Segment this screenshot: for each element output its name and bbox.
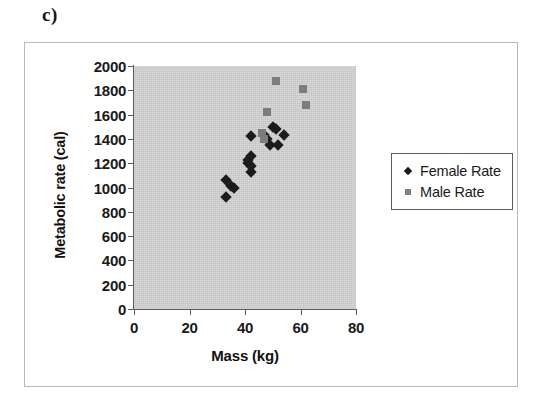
x-axis-tick: [134, 309, 135, 315]
data-point-male-rate: [272, 77, 280, 85]
legend-entry[interactable]: Female Rate: [400, 160, 501, 181]
scatter-chart: 0200400600800100012001400160018002000 02…: [25, 43, 519, 388]
y-axis-tick-label: 800: [70, 203, 126, 220]
y-axis-tick: [128, 139, 134, 140]
legend-entry-label: Female Rate: [420, 163, 501, 179]
diamond-marker-icon: [400, 168, 416, 174]
legend-entry-label: Male Rate: [420, 184, 484, 200]
y-axis-tick: [128, 188, 134, 189]
y-axis-tick-label: 2000: [70, 58, 126, 75]
x-axis-tick-label: 0: [130, 319, 138, 336]
y-axis-tick: [128, 285, 134, 286]
y-axis-tick: [128, 66, 134, 67]
y-axis-tick-label: 1400: [70, 130, 126, 147]
plot-area: [134, 66, 356, 309]
data-point-male-rate: [302, 101, 310, 109]
y-axis-tick: [128, 163, 134, 164]
y-axis-tick-label: 1200: [70, 155, 126, 172]
x-axis-title: Mass (kg): [134, 347, 356, 364]
y-axis-tick: [128, 260, 134, 261]
x-axis-tick-label: 40: [237, 319, 253, 336]
y-axis-tick: [128, 236, 134, 237]
y-axis-tick-label: 400: [70, 252, 126, 269]
y-axis-tick-label: 1800: [70, 82, 126, 99]
square-marker-icon: [400, 189, 416, 195]
x-axis-tick: [190, 309, 191, 315]
y-axis-tick-label: 1600: [70, 106, 126, 123]
data-point-male-rate: [299, 85, 307, 93]
y-axis-tick-label: 1000: [70, 179, 126, 196]
x-axis-tick-label: 80: [348, 319, 364, 336]
x-axis-tick-label: 20: [181, 319, 197, 336]
y-axis-tick: [128, 115, 134, 116]
y-axis-title: Metabolic rate (cal): [52, 85, 68, 305]
data-point-male-rate: [263, 108, 271, 116]
x-axis-tick: [301, 309, 302, 315]
legend-entry[interactable]: Male Rate: [400, 181, 501, 202]
y-axis-tick-labels: 0200400600800100012001400160018002000: [66, 43, 126, 388]
x-axis-tick: [245, 309, 246, 315]
y-axis-tick-label: 600: [70, 228, 126, 245]
y-axis-tick: [128, 90, 134, 91]
y-axis-tick-label: 0: [70, 301, 126, 318]
x-axis-tick-label: 60: [292, 319, 308, 336]
figure-frame: 0200400600800100012001400160018002000 02…: [24, 42, 518, 387]
y-axis-tick-label: 200: [70, 276, 126, 293]
panel-label: c): [42, 4, 58, 26]
chart-legend: Female RateMale Rate: [391, 153, 513, 210]
data-point-male-rate: [260, 135, 268, 143]
y-axis-tick: [128, 212, 134, 213]
x-axis-tick: [356, 309, 357, 315]
